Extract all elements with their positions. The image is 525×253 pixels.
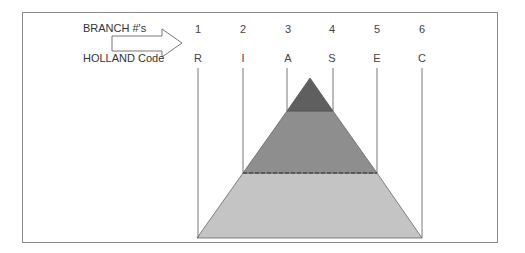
branch-number-6: 6: [419, 23, 425, 35]
holland-label: HOLLAND Code: [83, 52, 164, 64]
branch-number-4: 4: [329, 23, 335, 35]
holland-code-C: C: [418, 52, 426, 64]
holland-code-S: S: [328, 52, 335, 64]
holland-code-A: A: [284, 52, 291, 64]
branch-number-5: 5: [374, 23, 380, 35]
pyramid-top-band: [287, 78, 333, 111]
pyramid-diagram: [0, 0, 525, 253]
holland-code-E: E: [373, 52, 380, 64]
branch-number-2: 2: [240, 23, 246, 35]
holland-code-R: R: [194, 52, 202, 64]
branch-number-1: 1: [195, 23, 201, 35]
branch-label: BRANCH #'s: [83, 22, 146, 34]
pyramid-middle-band: [243, 111, 377, 173]
holland-code-I: I: [241, 52, 244, 64]
branch-number-3: 3: [285, 23, 291, 35]
pyramid-bottom-band: [197, 173, 422, 238]
